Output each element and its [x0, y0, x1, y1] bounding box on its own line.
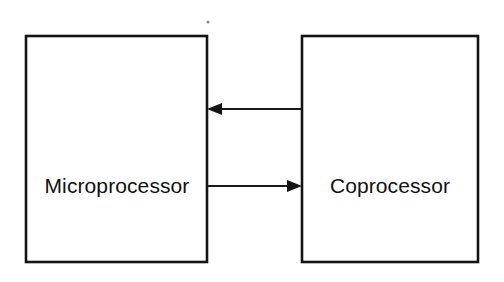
node-microprocessor: Microprocessor	[26, 36, 207, 262]
coprocessor-label: Coprocessor	[330, 174, 450, 197]
coprocessor-box	[302, 36, 478, 262]
arrow-coprocessor-to-microprocessor	[207, 103, 302, 115]
scan-speck-artifact	[206, 20, 209, 23]
microprocessor-label: Microprocessor	[45, 174, 190, 197]
arrow-microprocessor-to-coprocessor	[207, 180, 302, 192]
diagram-canvas: Microprocessor Coprocessor	[0, 0, 504, 282]
arrowhead-left-icon	[207, 103, 222, 115]
arrowhead-right-icon	[287, 180, 302, 192]
block-diagram: Microprocessor Coprocessor	[0, 0, 504, 282]
node-coprocessor: Coprocessor	[302, 36, 478, 262]
microprocessor-box	[26, 36, 207, 262]
